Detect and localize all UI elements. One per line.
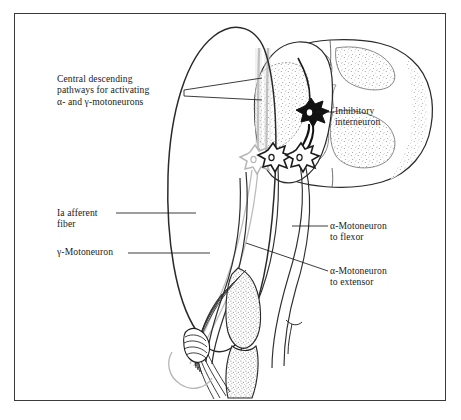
muscle-spindle <box>184 328 210 362</box>
label-alpha-motoneuron-flexor: α-Motoneuron to flexor <box>330 220 387 243</box>
alpha-flexor-axon-outer <box>284 168 310 366</box>
label-ia-afferent-fiber: Ia afferent fiber <box>57 207 98 230</box>
tendon-fork <box>286 320 302 354</box>
leader-central-1 <box>184 78 262 90</box>
label-inhibitory-interneuron: Inhibitory interneuron <box>335 105 380 128</box>
label-gamma-motoneuron: γ-Motoneuron <box>57 246 113 257</box>
extensor-muscle-lower <box>226 346 258 398</box>
extensor-muscle-upper <box>226 268 261 348</box>
leader-central-2 <box>184 96 262 100</box>
figure-page: Central descending pathways for activati… <box>0 0 461 420</box>
label-central-descending: Central descending pathways for activati… <box>57 73 149 107</box>
alpha-flexor-axon <box>272 164 302 368</box>
label-alpha-motoneuron-extensor: α-Motoneuron to extensor <box>330 265 387 288</box>
descending-tract-1 <box>258 48 259 160</box>
leader-alpha-extensor <box>246 243 328 271</box>
muscle-group <box>169 268 302 399</box>
